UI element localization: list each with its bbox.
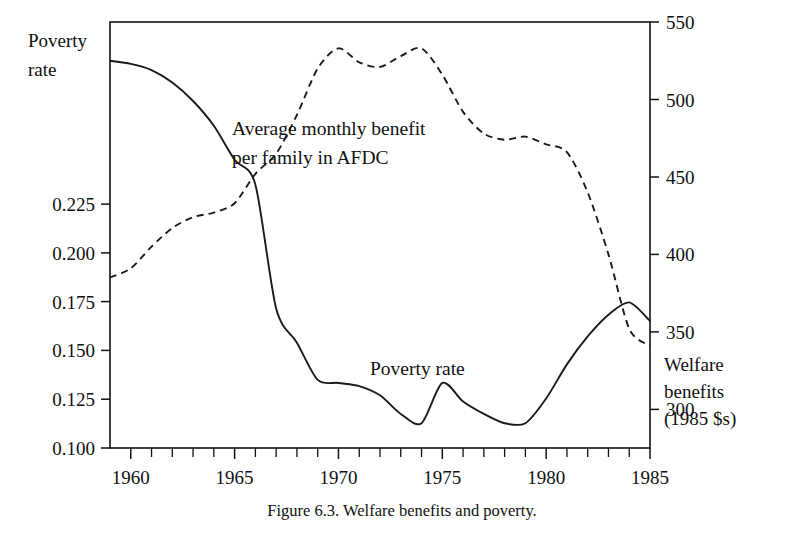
annotation-benefits: Average monthly benefit per family in AF… bbox=[232, 118, 426, 168]
right-axis-ticks bbox=[650, 22, 659, 409]
x-tick-label-1980: 1980 bbox=[527, 467, 565, 488]
x-tick-label-1965: 1965 bbox=[216, 467, 254, 488]
figure-container: 0.225 0.200 0.175 0.150 0.125 0.100 550 … bbox=[0, 0, 804, 534]
right-tick-label-400: 400 bbox=[666, 244, 695, 265]
x-axis-tick-labels: 196019651970197519801985 bbox=[112, 467, 669, 488]
left-axis-title: Poverty rate bbox=[28, 30, 88, 80]
left-tick-label-0225: 0.225 bbox=[52, 194, 95, 215]
plot-frame bbox=[110, 22, 650, 448]
left-axis-title-line1: Poverty bbox=[28, 30, 88, 51]
annotation-benefits-line2: per family in AFDC bbox=[232, 147, 389, 168]
right-tick-label-500: 500 bbox=[666, 90, 695, 111]
left-tick-label-0100: 0.100 bbox=[52, 438, 95, 459]
left-axis-ticks bbox=[101, 204, 110, 448]
left-axis-title-line2: rate bbox=[28, 59, 56, 80]
left-tick-label-0125: 0.125 bbox=[52, 389, 95, 410]
right-axis-title: Welfare benefits (1985 $s) bbox=[664, 354, 736, 430]
right-tick-label-450: 450 bbox=[666, 167, 695, 188]
figure-caption: Figure 6.3. Welfare benefits and poverty… bbox=[267, 501, 536, 520]
annotation-benefits-line1: Average monthly benefit bbox=[232, 118, 426, 139]
left-axis-tick-labels: 0.225 0.200 0.175 0.150 0.125 0.100 bbox=[52, 194, 95, 459]
right-axis-title-line3: (1985 $s) bbox=[664, 408, 736, 430]
series-line-welfare-benefits bbox=[110, 48, 650, 346]
right-axis-title-line1: Welfare bbox=[664, 354, 724, 375]
left-tick-label-0175: 0.175 bbox=[52, 292, 95, 313]
left-tick-label-0200: 0.200 bbox=[52, 243, 95, 264]
annotation-poverty-rate: Poverty rate bbox=[370, 358, 465, 379]
x-tick-label-1970: 1970 bbox=[319, 467, 357, 488]
x-tick-label-1975: 1975 bbox=[423, 467, 461, 488]
left-tick-label-0150: 0.150 bbox=[52, 340, 95, 361]
right-tick-label-550: 550 bbox=[666, 12, 695, 33]
x-axis-minor-ticks bbox=[131, 448, 650, 459]
welfare-poverty-chart: 0.225 0.200 0.175 0.150 0.125 0.100 550 … bbox=[0, 0, 804, 534]
x-tick-label-1985: 1985 bbox=[631, 467, 669, 488]
x-tick-label-1960: 1960 bbox=[112, 467, 150, 488]
right-axis-title-line2: benefits bbox=[664, 381, 724, 402]
right-tick-label-350: 350 bbox=[666, 322, 695, 343]
